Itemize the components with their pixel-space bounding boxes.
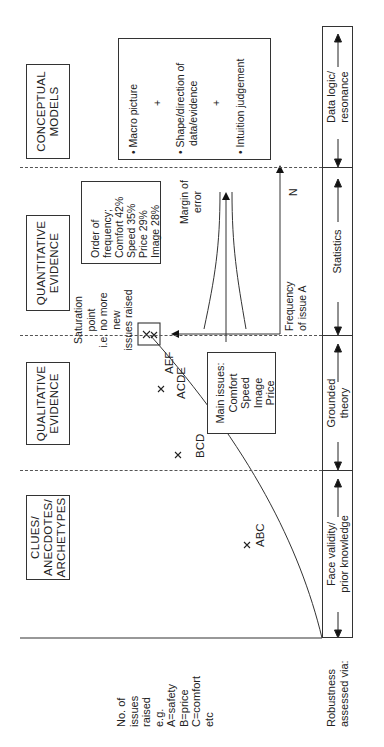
point-label-abc: ABC bbox=[254, 523, 267, 547]
band-statistics: Statistics bbox=[322, 167, 353, 336]
divider-quantitative-conceptual bbox=[20, 167, 322, 168]
divider-clues-qualitative bbox=[20, 470, 322, 471]
plus-sign: + bbox=[210, 39, 223, 154]
band-data-logic: Data logic/ resonance bbox=[322, 26, 353, 168]
margin-of-error-label: Margin of error bbox=[178, 172, 203, 232]
conceptual-models-box: • Macro picture + • Shape/direction of d… bbox=[118, 38, 271, 160]
plus-sign: + bbox=[151, 39, 164, 154]
research-evidence-diagram: CLUES/ ANECDOTES/ ARCHETYPES QUALITATIVE… bbox=[0, 0, 384, 747]
point-label-aef: AEF bbox=[163, 352, 176, 374]
column-title-clues: CLUES/ ANECDOTES/ ARCHETYPES bbox=[26, 495, 70, 580]
band-grounded-theory: Grounded theory bbox=[322, 335, 353, 471]
n-axis-label: N bbox=[287, 188, 300, 196]
item-macro-picture: • Macro picture bbox=[127, 39, 140, 154]
point-label-bcd: BCD bbox=[194, 434, 207, 458]
divider-qualitative-quantitative bbox=[20, 335, 322, 336]
point-label-acde: ACDE bbox=[175, 367, 188, 399]
margin-upper-curve bbox=[204, 192, 220, 329]
margin-lower-curve bbox=[232, 192, 246, 329]
column-title-conceptual: CONCEPTUAL MODELS bbox=[26, 64, 70, 159]
frequency-order-box: Order of frequency; Comfort 42% Speed 35… bbox=[81, 181, 161, 264]
y-axis-label: No. of issues raised e.g. A=safety B=pri… bbox=[115, 647, 215, 727]
column-title-quantitative: QUANTITATIVE EVIDENCE bbox=[26, 215, 70, 311]
main-issues-box: Main issues: Comfort Speed Image Price bbox=[207, 352, 276, 434]
band-face-validity: Face validity/ prior knowledge bbox=[322, 470, 353, 638]
robustness-row-label: Robustness assessed via: bbox=[325, 642, 351, 727]
saturation-point-label: Saturation point i.e. no more new issues… bbox=[72, 275, 135, 365]
frequency-axis-label: Frequency of issue A bbox=[283, 281, 308, 331]
saturation-box bbox=[138, 323, 160, 345]
item-shape-direction: • Shape/direction of bbox=[174, 39, 187, 154]
column-title-qualitative: QUALITATIVE EVIDENCE bbox=[26, 362, 70, 445]
item-intuition-judgement: • Intuition judgement bbox=[234, 39, 247, 154]
